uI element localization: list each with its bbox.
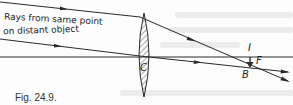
- upper-refracted-ray: [140, 17, 288, 81]
- lower-incident-ray: [0, 39, 140, 56]
- arrow-icon: [280, 77, 290, 83]
- arrow-icon: [194, 60, 202, 64]
- arrow-icon: [281, 69, 290, 73]
- lens-centre-label: C: [140, 63, 147, 73]
- image-arrow-head-icon: [247, 62, 254, 68]
- lower-refracted-ray: [140, 56, 288, 72]
- arrow-icon: [187, 37, 197, 42]
- figure-page: Rays from same point on distant object C…: [0, 0, 293, 105]
- focal-point-label: F: [256, 56, 262, 66]
- image-label: I: [248, 43, 251, 53]
- image-point-label: B: [242, 70, 249, 80]
- converging-lens: [139, 13, 149, 97]
- figure-caption: Fig. 24.9.: [15, 92, 57, 103]
